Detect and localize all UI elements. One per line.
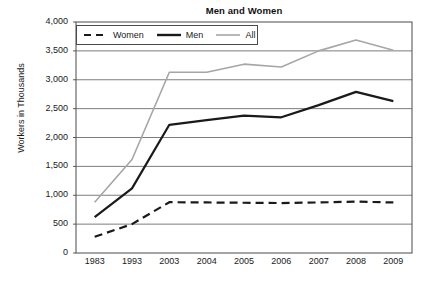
line-chart: Men and Women Workers in Thousands 05001… [0, 0, 430, 281]
dashed-line-swatch-icon [83, 30, 109, 40]
legend-label-women: Women [113, 30, 144, 40]
legend-label-all: All [245, 30, 255, 40]
legend-entry-men: Men [156, 26, 204, 44]
series-lines [95, 40, 394, 237]
legend: Women Men All [76, 25, 258, 45]
legend-label-men: Men [186, 30, 204, 40]
gridlines [76, 51, 412, 224]
solid-thick-line-swatch-icon [156, 30, 182, 40]
series-line-men [95, 92, 394, 217]
series-line-all [95, 40, 394, 202]
legend-entry-all: All [215, 26, 255, 44]
solid-thin-gray-line-swatch-icon [215, 30, 241, 40]
legend-entry-women: Women [83, 26, 144, 44]
series-line-women [95, 202, 394, 237]
